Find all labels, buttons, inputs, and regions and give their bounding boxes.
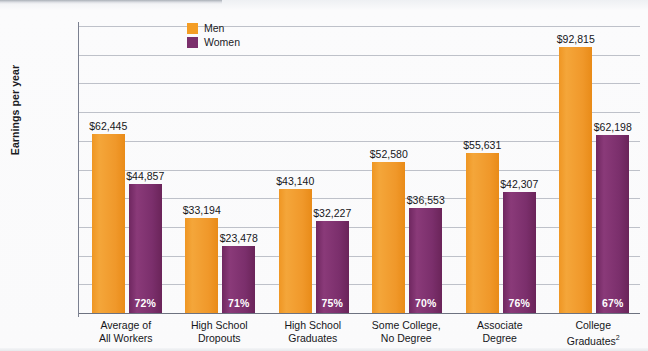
- bar-value-label: $92,815: [557, 33, 595, 45]
- y-axis-title: Earnings per year: [9, 46, 21, 174]
- bar-women[interactable]: $62,19867%: [596, 135, 629, 314]
- bar-percent-label: 67%: [596, 297, 629, 309]
- legend-swatch-men-icon: [187, 23, 198, 34]
- legend-swatch-women-icon: [187, 37, 198, 48]
- plot-area: $62,445$44,85772%$33,194$23,47871%$43,14…: [79, 26, 640, 313]
- scan-artifact-strip: [0, 0, 222, 4]
- bar-men[interactable]: $92,815: [559, 47, 592, 313]
- legend-item-women: Women: [187, 36, 240, 48]
- bar-value-label: $62,198: [594, 121, 632, 133]
- legend-item-men: Men: [187, 22, 240, 34]
- bar-group: $92,815$62,19867%: [79, 26, 640, 313]
- bar-chart: Earnings per year $62,445$44,85772%$33,1…: [0, 0, 648, 351]
- legend-label-men: Men: [204, 22, 224, 34]
- gridline: [79, 313, 640, 314]
- legend: Men Women: [187, 22, 240, 48]
- legend-label-women: Women: [204, 36, 240, 48]
- x-axis-category-label: CollegeGraduates2: [537, 319, 648, 347]
